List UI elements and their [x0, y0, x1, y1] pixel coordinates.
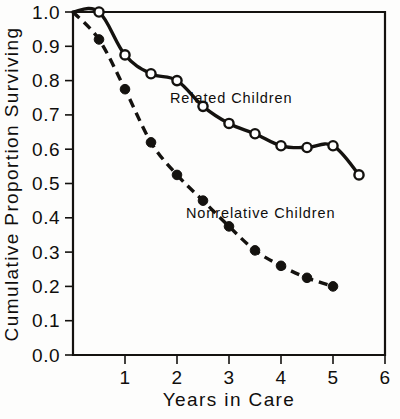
data-point-nonrelative	[146, 138, 156, 148]
y-tick-label: 0.3	[32, 242, 60, 263]
x-tick-label: 2	[171, 367, 182, 388]
x-tick-label: 6	[379, 367, 390, 388]
data-point-related	[94, 7, 103, 16]
data-point-related	[172, 76, 181, 85]
y-tick-label: 0.2	[32, 276, 60, 297]
x-tick-label: 5	[327, 367, 338, 388]
y-tick-label: 0.4	[32, 207, 60, 228]
y-tick-label: 1.0	[32, 2, 60, 23]
y-axis-ticks	[65, 12, 73, 355]
data-point-nonrelative	[302, 273, 312, 283]
data-point-related	[328, 141, 337, 150]
y-axis-tick-labels: 0.00.10.20.30.40.50.60.70.80.91.0	[32, 2, 60, 366]
x-axis-tick-labels: 123456	[119, 367, 390, 388]
data-point-related	[120, 50, 129, 59]
data-point-nonrelative	[172, 170, 182, 180]
data-point-nonrelative	[328, 282, 338, 292]
data-point-related	[224, 119, 233, 128]
data-point-nonrelative	[250, 246, 260, 256]
plot-frame	[73, 12, 385, 355]
data-point-related	[250, 129, 259, 138]
data-point-nonrelative	[198, 196, 208, 206]
data-point-nonrelative	[120, 84, 130, 94]
data-point-related	[302, 143, 311, 152]
data-point-nonrelative	[94, 35, 104, 45]
series-annotation-related: Related Children	[170, 90, 292, 106]
y-tick-label: 0.0	[32, 345, 60, 366]
y-tick-label: 0.9	[32, 36, 60, 57]
figure-container: 0.00.10.20.30.40.50.60.70.80.91.0 123456…	[0, 0, 400, 419]
series-annotation-nonrelative: Nonrelative Children	[186, 205, 335, 221]
data-point-nonrelative	[276, 261, 286, 271]
data-point-related	[276, 141, 285, 150]
survival-curve-chart: 0.00.10.20.30.40.50.60.70.80.91.0 123456…	[0, 0, 400, 419]
x-axis-title: Years in Care	[163, 389, 296, 410]
y-tick-label: 0.1	[32, 310, 60, 331]
y-tick-label: 0.5	[32, 173, 60, 194]
data-point-related	[354, 170, 363, 179]
y-tick-label: 0.8	[32, 70, 60, 91]
y-tick-label: 0.6	[32, 139, 60, 160]
x-tick-label: 1	[119, 367, 130, 388]
data-point-related	[146, 69, 155, 78]
y-axis-title: Cumulative Proportion Surviving	[1, 27, 22, 342]
data-point-nonrelative	[224, 222, 234, 232]
x-axis-ticks	[125, 355, 385, 364]
x-tick-label: 3	[223, 367, 234, 388]
x-tick-label: 4	[275, 367, 286, 388]
y-tick-label: 0.7	[32, 104, 60, 125]
series-nonrelative-children	[73, 12, 338, 291]
